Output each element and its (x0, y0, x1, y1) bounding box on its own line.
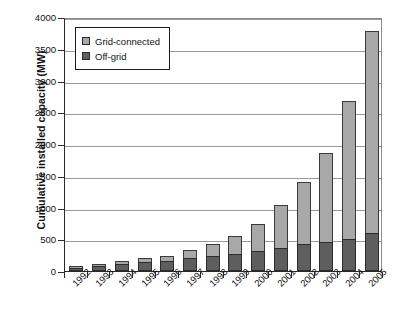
x-axis-tick (314, 272, 315, 278)
x-axis-tick (246, 272, 247, 278)
x-axis-tick (291, 272, 292, 278)
gridline (65, 178, 381, 179)
bar-segment-off-grid[interactable] (251, 251, 265, 271)
gridline (65, 114, 381, 115)
x-axis-tick (268, 272, 269, 278)
bar-group[interactable] (365, 31, 379, 271)
y-axis-tick-label: 3000 (18, 76, 56, 87)
x-axis-tick (109, 272, 110, 278)
bar-segment-grid-connected[interactable] (297, 182, 311, 244)
x-axis-tick (132, 272, 133, 278)
x-axis-tick (155, 272, 156, 278)
y-axis-tick-label: 0 (18, 266, 56, 277)
gridline (65, 83, 381, 84)
legend-item[interactable]: Grid-connected (82, 34, 160, 48)
bar-segment-grid-connected[interactable] (274, 205, 288, 248)
bar-segment-grid-connected[interactable] (319, 153, 333, 242)
x-axis-tick (359, 272, 360, 278)
y-axis-tick-label: 1500 (18, 171, 56, 182)
bar-segment-off-grid[interactable] (319, 242, 333, 271)
bar-group[interactable] (297, 182, 311, 271)
y-axis-tick-label: 3500 (18, 44, 56, 55)
x-axis-tick (87, 272, 88, 278)
gridline (65, 19, 381, 20)
bar-segment-grid-connected[interactable] (206, 244, 220, 256)
dark-gray-swatch-icon (82, 52, 90, 60)
gridline (65, 146, 381, 147)
x-axis-tick (382, 272, 383, 278)
bar-segment-grid-connected[interactable] (342, 101, 356, 239)
gridline (65, 241, 381, 242)
bar-segment-off-grid[interactable] (297, 244, 311, 271)
legend-item[interactable]: Off-grid (82, 49, 160, 63)
x-axis-tick (223, 272, 224, 278)
chart-legend: Grid-connectedOff-grid (75, 27, 170, 70)
bar-group[interactable] (342, 101, 356, 271)
legend-item-label: Off-grid (95, 51, 127, 62)
bar-segment-off-grid[interactable] (342, 239, 356, 271)
bar-segment-grid-connected[interactable] (251, 224, 265, 251)
x-axis-tick (64, 272, 65, 278)
bar-group[interactable] (251, 224, 265, 271)
y-axis-tick-label: 500 (18, 234, 56, 245)
gridline (65, 210, 381, 211)
bar-segment-grid-connected[interactable] (228, 236, 242, 253)
bar-group[interactable] (228, 236, 242, 271)
x-axis-tick (337, 272, 338, 278)
chart-figure: Cumulative installed capacity (MW) 40003… (0, 0, 404, 317)
bar-group[interactable] (319, 153, 333, 271)
bar-group[interactable] (183, 250, 197, 271)
bar-segment-off-grid[interactable] (365, 233, 379, 271)
bar-segment-grid-connected[interactable] (365, 31, 379, 233)
bar-group[interactable] (206, 244, 220, 271)
light-gray-swatch-icon (82, 37, 90, 45)
y-axis-tick-label: 1000 (18, 203, 56, 214)
x-axis-tick (178, 272, 179, 278)
bar-segment-off-grid[interactable] (274, 248, 288, 271)
bar-group[interactable] (274, 205, 288, 271)
y-axis-tick-label: 4000 (18, 12, 56, 23)
x-axis-tick (200, 272, 201, 278)
legend-item-label: Grid-connected (95, 36, 160, 47)
y-axis-tick-label: 2500 (18, 107, 56, 118)
y-axis-tick-label: 2000 (18, 139, 56, 150)
bar-segment-grid-connected[interactable] (183, 250, 197, 258)
